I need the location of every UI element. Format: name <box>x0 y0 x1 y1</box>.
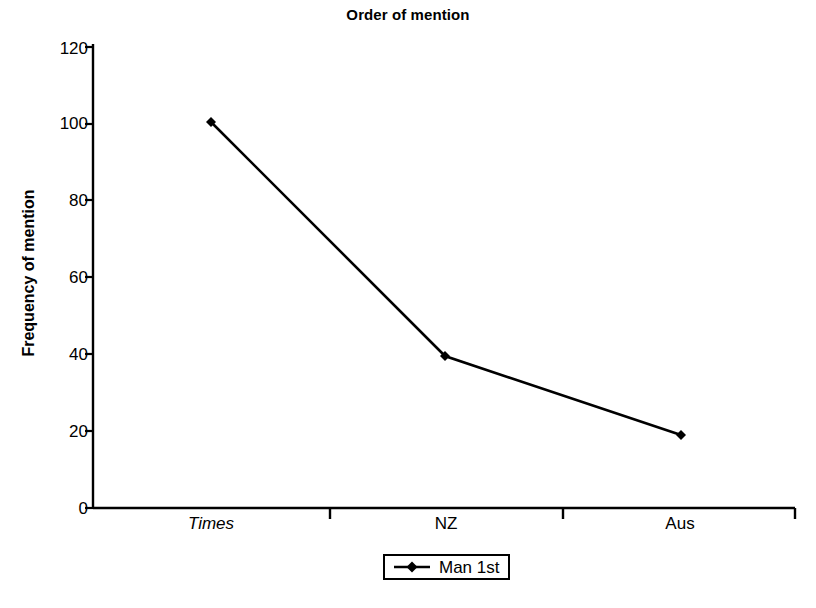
x-category-label-times: Times <box>161 515 261 532</box>
chart-legend: Man 1st <box>383 554 510 580</box>
x-category-label-aus: Aus <box>630 515 730 532</box>
data-point-aus <box>676 430 686 440</box>
legend-line-marker-icon <box>392 560 432 574</box>
chart-container: Order of mention Frequency of mention 12… <box>0 0 816 608</box>
x-category-label-nz: NZ <box>396 515 496 532</box>
series-line-man-1st <box>211 122 681 435</box>
legend-label-man-1st: Man 1st <box>439 559 499 576</box>
series-markers-man-1st <box>206 117 686 440</box>
